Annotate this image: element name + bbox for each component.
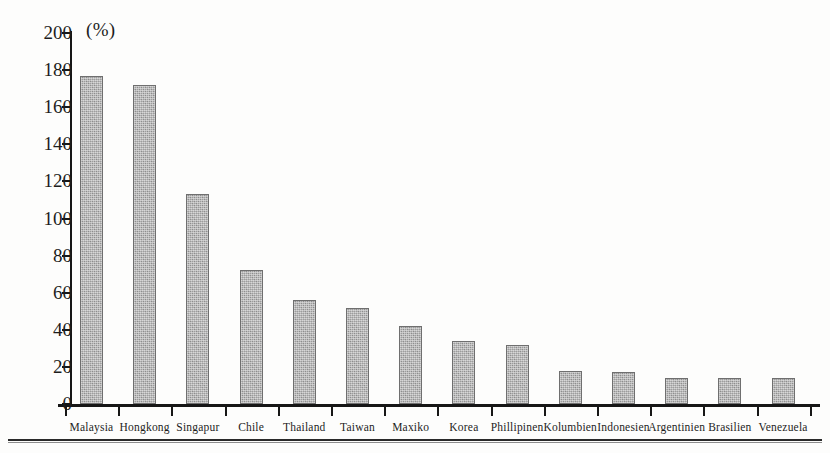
- bar: [665, 378, 688, 404]
- footer-rule-shadow: [8, 442, 822, 443]
- x-tick-mark: [757, 407, 759, 416]
- y-tick-label: 100: [26, 209, 72, 228]
- bar: [293, 300, 316, 404]
- x-tick-label: Singapur: [176, 421, 219, 433]
- bar: [559, 371, 582, 404]
- x-tick-mark: [278, 407, 280, 416]
- x-tick-label: Hongkong: [120, 421, 170, 433]
- bar: [240, 270, 263, 404]
- x-tick-mark: [171, 407, 173, 416]
- bar: [346, 308, 369, 404]
- x-tick-mark: [544, 407, 546, 416]
- x-tick-mark: [384, 407, 386, 416]
- bar-chart-plot: (%) 020406080100120140160180200 Malaysia…: [0, 0, 830, 453]
- y-tick-label: 140: [26, 134, 72, 153]
- bar: [506, 345, 529, 404]
- footer-rule: [8, 439, 822, 441]
- bar: [452, 341, 475, 404]
- x-tick-mark: [810, 407, 812, 416]
- chart-figure: (%) 020406080100120140160180200 Malaysia…: [0, 0, 830, 453]
- x-tick-label: Venezuela: [759, 421, 808, 433]
- x-tick-mark: [437, 407, 439, 416]
- bar: [772, 378, 795, 404]
- x-tick-label: Argentinien: [648, 421, 705, 433]
- x-tick-label: Taiwan: [340, 421, 375, 433]
- x-tick-label: Malaysia: [70, 421, 114, 433]
- y-tick-label: 20: [26, 357, 72, 376]
- bar: [612, 372, 635, 404]
- y-tick-label: 60: [26, 283, 72, 302]
- x-tick-label: Maxiko: [392, 421, 429, 433]
- y-tick-label: 160: [26, 97, 72, 116]
- x-tick-mark: [225, 407, 227, 416]
- y-axis-unit-label: (%): [86, 19, 115, 41]
- bar: [399, 326, 422, 404]
- x-tick-mark: [331, 407, 333, 416]
- bar: [186, 194, 209, 404]
- x-tick-label: Chile: [238, 421, 264, 433]
- y-tick-label: 120: [26, 171, 72, 190]
- bar: [80, 76, 103, 404]
- x-tick-label: Thailand: [283, 421, 325, 433]
- x-tick-label: Brasilien: [708, 421, 751, 433]
- bar: [718, 378, 741, 404]
- x-tick-mark: [650, 407, 652, 416]
- x-tick-label: Korea: [449, 421, 478, 433]
- x-tick-mark: [597, 407, 599, 416]
- bar: [133, 85, 156, 404]
- x-tick-mark: [65, 407, 67, 416]
- x-tick-label: Kolumbien: [544, 421, 598, 433]
- y-tick-label: 180: [26, 60, 72, 79]
- x-tick-mark: [491, 407, 493, 416]
- x-tick-label: Phillipinen: [491, 421, 544, 433]
- x-tick-label: Indonesien: [597, 421, 649, 433]
- x-tick-mark: [703, 407, 705, 416]
- y-tick-label: 40: [26, 320, 72, 339]
- y-tick-label: 80: [26, 246, 72, 265]
- y-tick-label: 200: [26, 23, 72, 42]
- x-tick-mark: [118, 407, 120, 416]
